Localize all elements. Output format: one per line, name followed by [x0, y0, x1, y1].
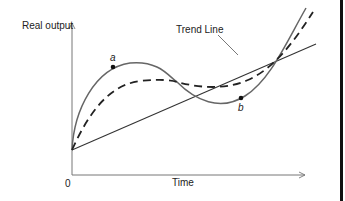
point-b-marker: [239, 96, 244, 101]
point-a-label: a: [110, 52, 116, 63]
x-axis-label: Time: [172, 177, 194, 188]
trend-line: [72, 44, 316, 150]
right-border: [340, 0, 343, 201]
trend-line-label: Trend Line: [176, 24, 223, 35]
trend-label-leader: [218, 35, 238, 55]
point-a-marker: [111, 65, 116, 70]
point-b-label: b: [238, 102, 244, 113]
origin-label: 0: [65, 178, 71, 189]
y-axis-label: Real output: [22, 20, 73, 31]
